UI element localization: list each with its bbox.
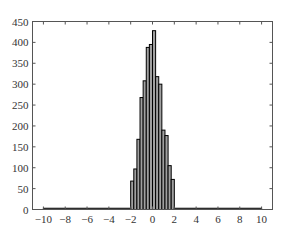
x-tick-label: 4: [193, 213, 199, 225]
x-tick-label: −4: [103, 213, 115, 225]
y-tick-label: 300: [12, 78, 29, 90]
x-tick-label: −2: [125, 213, 137, 225]
y-tick-label: 250: [12, 99, 29, 111]
x-tick-label: −10: [35, 213, 53, 225]
histogram-bar: [171, 179, 174, 209]
x-tick-label: −8: [59, 213, 71, 225]
y-tick-label: 350: [12, 57, 29, 69]
y-tick-label: 0: [23, 204, 29, 216]
x-tick-label: −6: [81, 213, 93, 225]
histogram-bars: [131, 31, 175, 210]
x-tick-label: 0: [150, 213, 156, 225]
y-tick-label: 450: [12, 16, 29, 28]
y-tick-label: 200: [12, 120, 29, 132]
y-tick-label: 50: [18, 183, 30, 195]
y-tick-label: 150: [12, 141, 29, 153]
x-tick-label: 10: [256, 213, 268, 225]
x-tick-label: 6: [215, 213, 221, 225]
y-tick-label: 100: [12, 162, 29, 174]
histogram-chart: −10−8−6−4−20246810 050100150200250300350…: [0, 0, 281, 234]
x-tick-label: 2: [172, 213, 178, 225]
x-tick-label: 8: [237, 213, 243, 225]
y-tick-label: 400: [12, 36, 29, 48]
